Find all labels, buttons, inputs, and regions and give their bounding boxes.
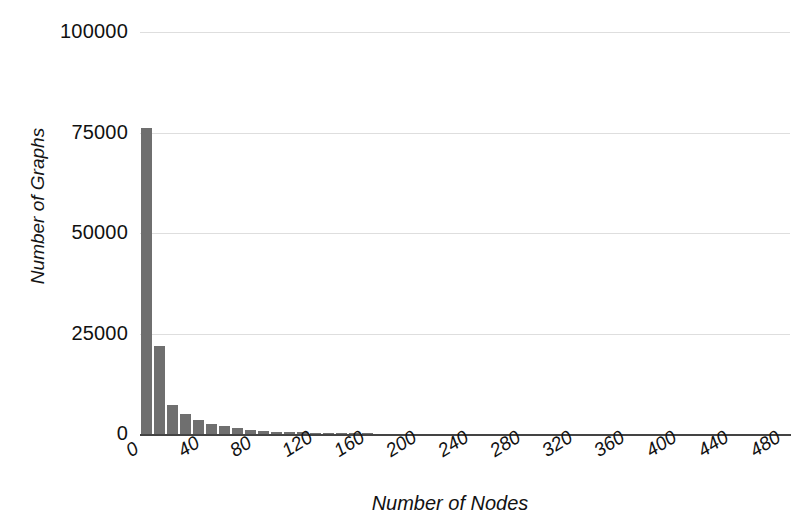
x-tick-label: 360 (590, 426, 629, 461)
x-tick-label: 200 (382, 426, 421, 461)
x-tick-label: 280 (486, 426, 525, 461)
x-tick-label: 160 (330, 426, 369, 461)
x-tick-label: 0 (122, 437, 143, 461)
chart-figure: 0250005000075000100000 Number of Graphs … (0, 0, 807, 532)
x-tick-label: 40 (174, 432, 204, 462)
x-tick-label: 480 (746, 426, 785, 461)
x-tick-label: 120 (278, 426, 317, 461)
x-tick-label: 80 (226, 432, 256, 462)
x-tick-label: 320 (538, 426, 577, 461)
x-tick-label: 400 (642, 426, 681, 461)
x-tick-label: 440 (694, 426, 733, 461)
x-axis-title: Number of Nodes (280, 492, 620, 515)
x-axis-tick-labels: 04080120160200240280320360400440480 (0, 0, 807, 532)
x-tick-label: 240 (434, 426, 473, 461)
